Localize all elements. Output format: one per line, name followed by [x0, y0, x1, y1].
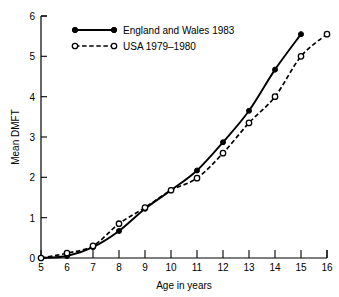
data-point-usa-1979-1980-age-15: [298, 54, 303, 59]
y-tick-label-3: 3: [29, 132, 35, 143]
series-line-england-and-wales-1983: [41, 34, 301, 258]
x-tick-label-5: 5: [38, 262, 44, 273]
legend-marker-filled-left: [72, 27, 77, 32]
data-point-england-and-wales-1983-age-14: [273, 67, 278, 72]
legend-label-england: England and Wales 1983: [123, 25, 235, 36]
y-tick-label-5: 5: [29, 51, 35, 62]
data-point-england-and-wales-1983-age-8: [117, 228, 122, 233]
data-point-usa-1979-1980-age-10: [168, 188, 173, 193]
x-tick-label-11: 11: [192, 262, 203, 273]
y-tick-label-2: 2: [29, 172, 35, 183]
legend-marker-open-left: [72, 43, 77, 48]
data-point-usa-1979-1980-age-9: [142, 205, 147, 210]
legend-label-usa: USA 1979–1980: [123, 41, 196, 52]
y-tick-label-4: 4: [29, 92, 35, 103]
legend-marker-filled-right: [111, 27, 116, 32]
x-tick-label-10: 10: [165, 262, 177, 273]
data-point-usa-1979-1980-age-7: [90, 243, 95, 248]
data-point-usa-1979-1980-age-14: [272, 94, 277, 99]
data-point-usa-1979-1980-age-8: [116, 221, 121, 226]
data-point-usa-1979-1980-age-12: [220, 150, 225, 155]
x-tick-label-16: 16: [321, 262, 333, 273]
chart-figure: 0 1 2 3 4 5 6 5 6 7 8 9 10: [0, 0, 339, 297]
series-england-and-wales-1983: [39, 32, 304, 261]
x-tick-label-7: 7: [90, 262, 96, 273]
x-axis-title: Age in years: [156, 280, 212, 291]
legend-marker-open-right: [111, 43, 116, 48]
data-point-usa-1979-1980-age-13: [246, 120, 251, 125]
x-tick-label-14: 14: [269, 262, 281, 273]
data-series-layer: [38, 31, 329, 260]
x-tick-label-9: 9: [142, 262, 148, 273]
data-point-england-and-wales-1983-age-13: [247, 108, 252, 113]
data-point-usa-1979-1980-age-16: [324, 31, 329, 36]
x-axis-ticks: 5 6 7 8 9 10 11 12 13 14 15 16: [38, 250, 333, 273]
y-tick-label-6: 6: [29, 11, 35, 22]
data-point-england-and-wales-1983-age-11: [195, 168, 200, 173]
y-tick-label-0: 0: [29, 253, 35, 264]
data-point-usa-1979-1980-age-5: [38, 255, 43, 260]
data-point-england-and-wales-1983-age-12: [221, 140, 226, 145]
series-line-usa-1979-1980: [41, 34, 327, 258]
legend-entry-england: England and Wales 1983: [72, 25, 235, 36]
data-point-usa-1979-1980-age-11: [194, 175, 199, 180]
data-point-usa-1979-1980-age-6: [64, 250, 69, 255]
axes-group: [41, 16, 327, 258]
y-axis-title: Mean DMFT: [10, 109, 21, 165]
data-point-england-and-wales-1983-age-15: [299, 32, 304, 37]
y-axis-ticks: 0 1 2 3 4 5 6: [29, 11, 47, 264]
x-tick-label-12: 12: [217, 262, 229, 273]
series-usa-1979-1980: [38, 31, 329, 260]
x-tick-label-15: 15: [295, 262, 307, 273]
x-tick-label-8: 8: [116, 262, 122, 273]
line-chart: 0 1 2 3 4 5 6 5 6 7 8 9 10: [0, 0, 339, 297]
legend-entry-usa: USA 1979–1980: [72, 41, 196, 52]
y-tick-label-1: 1: [29, 213, 35, 224]
x-tick-label-6: 6: [64, 262, 70, 273]
chart-legend: England and Wales 1983 USA 1979–1980: [72, 25, 235, 52]
x-tick-label-13: 13: [243, 262, 255, 273]
